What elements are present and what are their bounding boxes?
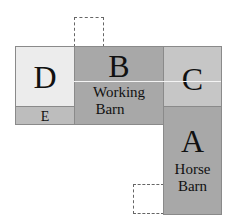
room-a-letter: A xyxy=(164,125,221,157)
room-c-letter: C xyxy=(164,63,221,95)
room-b-label-line1: Working xyxy=(75,84,163,101)
room-c: C xyxy=(163,46,222,107)
room-a-label-line1: Horse xyxy=(164,161,221,178)
dashed-extension-bottom xyxy=(133,184,164,214)
scan-line xyxy=(74,81,221,82)
room-b-label-line2: Barn xyxy=(57,101,163,118)
room-b-working-barn: B Working Barn xyxy=(74,46,164,125)
room-d-letter: D xyxy=(16,61,74,93)
room-d: D xyxy=(15,46,75,107)
room-a-label-line2: Barn xyxy=(164,178,221,195)
room-a-horse-barn: A Horse Barn xyxy=(163,106,222,215)
dashed-extension-top xyxy=(74,17,104,47)
room-b-letter: B xyxy=(75,50,163,82)
